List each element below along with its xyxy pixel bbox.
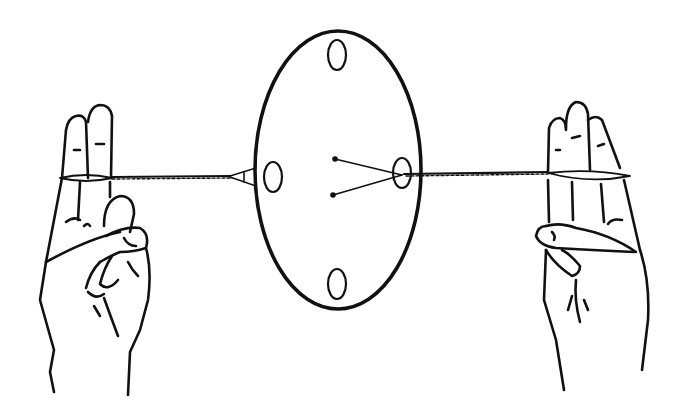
disc-hole-bottom [328,269,346,299]
center-pointers [330,156,402,198]
illustration-canvas [0,0,684,411]
left-string [60,168,256,186]
right-string [404,171,630,179]
disc-hole-left [264,162,282,192]
left-hand [40,105,150,395]
whirligig-illustration [0,0,684,411]
whirligig-disc [255,31,421,309]
disc-hole-top [328,40,346,70]
right-hand [536,102,648,390]
